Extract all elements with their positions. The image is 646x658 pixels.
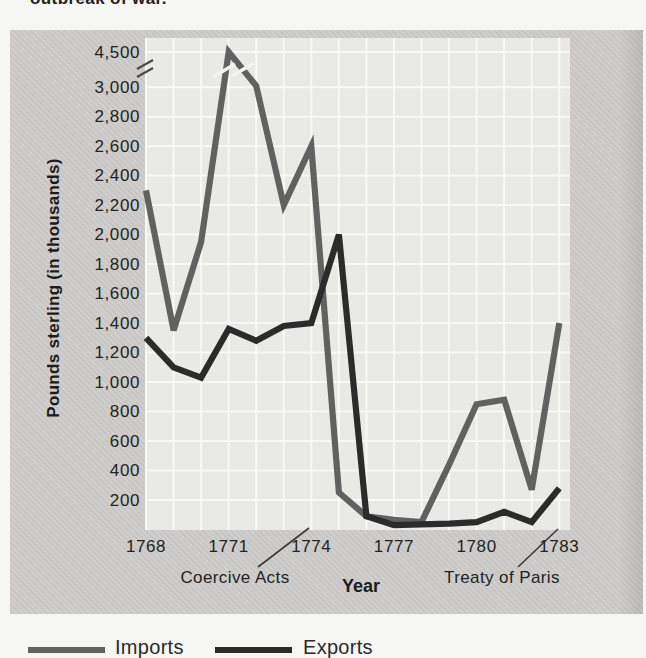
legend: Imports Exports xyxy=(0,636,646,658)
x-axis-title: Year xyxy=(336,576,386,597)
y-tick-2,800: 2,800 xyxy=(45,107,140,127)
x-tick-1771: 1771 xyxy=(199,537,259,557)
y-tick-4,500: 4,500 xyxy=(45,43,140,63)
exports-line-swatch xyxy=(215,647,292,653)
x-tick-1783: 1783 xyxy=(529,537,589,557)
annotation-treaty-of-paris: Treaty of Paris xyxy=(427,568,577,588)
y-tick-400: 400 xyxy=(45,461,140,481)
y-tick-1,600: 1,600 xyxy=(45,284,140,304)
y-tick-800: 800 xyxy=(45,402,140,422)
y-tick-3,000: 3,000 xyxy=(45,78,140,98)
y-tick-1,800: 1,800 xyxy=(45,255,140,275)
x-tick-1774: 1774 xyxy=(281,537,341,557)
imports-line-swatch xyxy=(28,647,105,653)
y-tick-2,400: 2,400 xyxy=(45,166,140,186)
x-tick-1780: 1780 xyxy=(447,537,507,557)
y-tick-2,000: 2,000 xyxy=(45,225,140,245)
x-tick-1777: 1777 xyxy=(364,537,424,557)
y-tick-2,200: 2,200 xyxy=(45,196,140,216)
y-tick-1,200: 1,200 xyxy=(45,343,140,363)
y-tick-200: 200 xyxy=(45,491,140,511)
x-tick-1768: 1768 xyxy=(116,537,176,557)
y-tick-600: 600 xyxy=(45,432,140,452)
y-tick-1,000: 1,000 xyxy=(45,373,140,393)
y-tick-2,600: 2,600 xyxy=(45,137,140,157)
annotation-coercive-acts: Coercive Acts xyxy=(160,568,310,588)
legend-label-exports: Exports xyxy=(303,636,373,658)
y-tick-1,400: 1,400 xyxy=(45,314,140,334)
legend-label-imports: Imports xyxy=(115,636,184,658)
page: { "caption_fragment": "outbreak of war."… xyxy=(0,0,646,658)
